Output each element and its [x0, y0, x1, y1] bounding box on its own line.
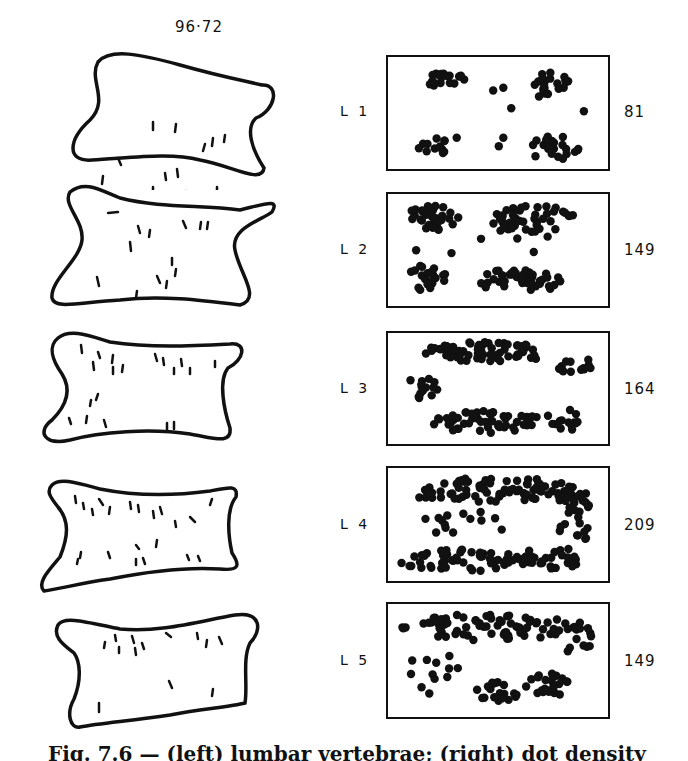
specimen-label: 96·72: [175, 18, 223, 36]
dot-plot-l2: [388, 194, 608, 306]
figure-caption: Fig. 7.6 — (left) lumbar vertebrae; (rig…: [48, 742, 648, 761]
level-label-l1: L 1: [340, 103, 370, 119]
count-l5: 149: [624, 652, 656, 670]
level-label-l5: L 5: [340, 652, 370, 668]
count-l3: 164: [624, 380, 656, 398]
dot-map-l2: [386, 192, 610, 308]
count-l1: 81: [624, 103, 645, 121]
vertebra-outline-l5: [0, 595, 330, 735]
vertebra-outline-l4: [0, 465, 330, 595]
dot-plot-l4: [388, 468, 608, 581]
dot-map-l1: [386, 55, 610, 171]
level-label-l3: L 3: [340, 380, 370, 396]
level-label-l4: L 4: [340, 516, 370, 532]
count-l2: 149: [624, 241, 656, 259]
vertebra-outline-l2: [0, 180, 330, 320]
dot-plot-l3: [388, 333, 608, 444]
dot-map-l3: [386, 331, 610, 446]
dot-map-l4: [386, 466, 610, 583]
dot-plot-l5: [388, 604, 608, 717]
vertebra-outline-l1: [0, 40, 330, 190]
count-l4: 209: [624, 516, 656, 534]
level-label-l2: L 2: [340, 241, 370, 257]
vertebra-outline-l3: [0, 320, 330, 460]
dot-plot-l1: [388, 57, 608, 169]
dot-map-l5: [386, 602, 610, 719]
